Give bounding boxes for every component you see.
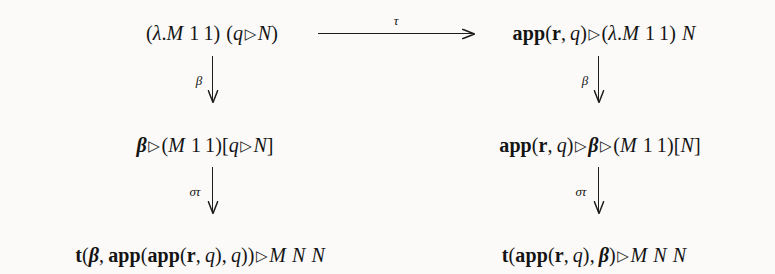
beta-symbol: β xyxy=(599,244,609,266)
index-one: 1 xyxy=(203,22,213,44)
comma: , xyxy=(590,244,595,266)
var-N: N xyxy=(258,22,271,44)
paren-close: ) xyxy=(669,22,676,44)
var-N: N xyxy=(653,244,666,266)
app-symbol: app xyxy=(515,244,548,266)
arrow-shaft xyxy=(318,33,473,34)
var-N: N xyxy=(673,244,686,266)
paren-open: ( xyxy=(509,244,516,266)
const-r: r xyxy=(555,244,564,266)
node-bottom-right: t(app(r,q),β)▷MNN xyxy=(502,245,686,265)
var-M: M xyxy=(620,134,637,156)
comma: , xyxy=(564,244,569,266)
var-q: q xyxy=(573,244,583,266)
triangle-operator-icon: ▷ xyxy=(243,26,258,42)
commutative-diagram: (λ.M11)(q▷N) app(r,q)▷(λ.M11)N β▷(M11)[q… xyxy=(0,0,775,274)
app-symbol: app xyxy=(499,134,532,156)
paren-open: ( xyxy=(602,22,609,44)
comma: , xyxy=(561,22,566,44)
arrow-top-horizontal xyxy=(318,33,473,35)
lambda-symbol: λ xyxy=(153,22,162,44)
paren-close: ) xyxy=(215,134,222,156)
paren-open: ( xyxy=(146,22,153,44)
index-one: 1 xyxy=(643,134,653,156)
comma: , xyxy=(196,244,201,266)
index-one: 1 xyxy=(205,134,215,156)
beta-symbol: β xyxy=(136,134,146,156)
t-symbol: t xyxy=(502,244,509,266)
triangle-operator-icon: ▷ xyxy=(574,138,589,154)
var-M: M xyxy=(631,244,648,266)
triangle-operator-icon: ▷ xyxy=(239,138,254,154)
arrowhead-down-icon xyxy=(594,201,605,214)
node-top-right: app(r,q)▷(λ.M11)N xyxy=(513,23,696,43)
triangle-operator-icon: ▷ xyxy=(599,138,614,154)
paren-close: ) xyxy=(215,244,222,266)
t-symbol: t xyxy=(75,244,82,266)
bracket-close: ] xyxy=(267,134,274,156)
arrow-label-right-upper: β xyxy=(582,74,588,87)
app-symbol: app xyxy=(108,244,141,266)
index-one: 1 xyxy=(189,22,199,44)
var-M: M xyxy=(269,244,286,266)
arrowhead-down-icon xyxy=(594,90,605,103)
var-q: q xyxy=(233,22,243,44)
comma: , xyxy=(222,244,227,266)
var-N: N xyxy=(682,22,695,44)
paren-close: ) xyxy=(271,22,278,44)
arrowhead-right-icon xyxy=(462,29,475,40)
paren-close: ) xyxy=(583,244,590,266)
arrow-label-right-lower: στ xyxy=(575,185,586,198)
node-bottom-left: t(β,app(app(r,q),q))▷MNN xyxy=(75,245,325,265)
paren-open: ( xyxy=(161,134,168,156)
beta-symbol: β xyxy=(588,134,598,156)
arrow-left-upper xyxy=(212,56,214,102)
node-middle-left: β▷(M11)[q▷N] xyxy=(136,135,273,155)
var-M: M xyxy=(622,22,639,44)
var-M: M xyxy=(168,134,185,156)
bracket-close: ] xyxy=(694,134,701,156)
var-N: N xyxy=(292,244,305,266)
index-one: 1 xyxy=(191,134,201,156)
var-M: M xyxy=(167,22,184,44)
const-r: r xyxy=(552,22,561,44)
paren-close: ) xyxy=(241,244,248,266)
var-q: q xyxy=(557,134,567,156)
beta-symbol: β xyxy=(89,244,99,266)
var-q: q xyxy=(570,22,580,44)
var-q: q xyxy=(231,244,241,266)
triangle-operator-icon: ▷ xyxy=(255,248,270,264)
arrow-label-left-lower: στ xyxy=(189,185,200,198)
paren-open: ( xyxy=(548,244,555,266)
paren-open: ( xyxy=(82,244,89,266)
triangle-operator-icon: ▷ xyxy=(616,248,631,264)
node-top-left: (λ.M11)(q▷N) xyxy=(146,23,278,43)
var-q: q xyxy=(229,134,239,156)
triangle-operator-icon: ▷ xyxy=(147,138,162,154)
comma: , xyxy=(99,244,104,266)
var-N: N xyxy=(311,244,324,266)
index-one: 1 xyxy=(645,22,655,44)
const-r: r xyxy=(539,134,548,156)
arrow-left-lower xyxy=(212,167,214,213)
paren-open: ( xyxy=(613,134,620,156)
var-N: N xyxy=(680,134,693,156)
index-one: 1 xyxy=(657,134,667,156)
comma: , xyxy=(548,134,553,156)
app-symbol: app xyxy=(513,22,546,44)
arrow-label-left-upper: β xyxy=(196,74,202,87)
triangle-operator-icon: ▷ xyxy=(587,26,602,42)
arrow-label-top-horizontal: τ xyxy=(394,14,399,27)
node-middle-right: app(r,q)▷β▷(M11)[N] xyxy=(499,135,700,155)
arrowhead-down-icon xyxy=(208,201,219,214)
app-symbol: app xyxy=(147,244,180,266)
var-q: q xyxy=(205,244,215,266)
arrow-right-upper xyxy=(598,56,600,102)
arrow-right-lower xyxy=(598,167,600,213)
arrowhead-down-icon xyxy=(208,90,219,103)
const-r: r xyxy=(187,244,196,266)
index-one: 1 xyxy=(659,22,669,44)
paren-close: ) xyxy=(214,22,221,44)
paren-open: ( xyxy=(180,244,187,266)
var-N: N xyxy=(253,134,266,156)
